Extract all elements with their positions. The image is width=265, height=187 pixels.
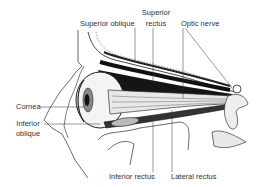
label-superior-rectus-line2: rectus xyxy=(141,20,171,28)
label-inferior-oblique-line1: Inferior xyxy=(12,120,44,128)
label-inferior-rectus: Inferior rectus xyxy=(109,173,155,181)
label-superior-rectus-line1: Superior xyxy=(141,9,171,17)
label-superior-oblique: Superior oblique xyxy=(80,20,135,28)
maxilla-outline xyxy=(108,142,134,165)
pupil xyxy=(85,94,90,106)
eye-muscle-diagram: Superior oblique Superior rectus Optic n… xyxy=(0,0,265,187)
label-inferior-oblique-line2: oblique xyxy=(12,130,44,138)
sphenoid-bone xyxy=(224,94,248,129)
anatomy-illustration xyxy=(0,0,265,187)
label-optic-nerve: Optic nerve xyxy=(181,20,219,28)
label-lateral-rectus: Lateral rectus xyxy=(171,173,216,181)
optic-canal xyxy=(233,85,241,93)
bone-fragment xyxy=(212,131,246,148)
label-cornea: Cornea xyxy=(16,103,41,111)
